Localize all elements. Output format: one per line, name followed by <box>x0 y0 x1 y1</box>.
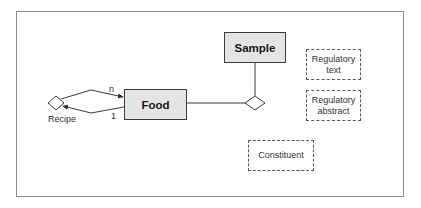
candidate-regulatory-abstract: Regulatory abstract <box>306 90 361 121</box>
food-sample-relationship-diamond <box>245 96 265 110</box>
diagram-canvas: Food Sample Recipe n 1 Regulatory text R… <box>0 0 421 208</box>
recipe-label: Recipe <box>48 114 76 124</box>
constituent-label: Constituent <box>258 150 304 161</box>
regulatory-abstract-line1: Regulatory <box>312 95 356 106</box>
cardinality-1-label: 1 <box>111 111 116 121</box>
recipe-relationship-diamond <box>48 96 64 110</box>
entity-sample-label: Sample <box>235 42 276 54</box>
regulatory-text-line1: Regulatory <box>312 54 356 65</box>
candidate-regulatory-text: Regulatory text <box>306 49 361 80</box>
entity-food-label: Food <box>141 99 169 111</box>
entity-sample: Sample <box>224 32 286 63</box>
candidate-constituent: Constituent <box>248 140 314 171</box>
regulatory-abstract-line2: abstract <box>312 106 356 117</box>
cardinality-n-label: n <box>109 84 114 94</box>
entity-food: Food <box>124 89 187 120</box>
regulatory-text-line2: text <box>312 65 356 76</box>
